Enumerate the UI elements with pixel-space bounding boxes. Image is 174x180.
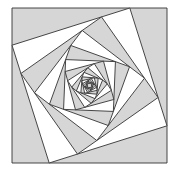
ring-square-16	[87, 83, 92, 88]
spiral-rings	[12, 8, 167, 163]
spiral-squares-figure	[0, 0, 174, 180]
